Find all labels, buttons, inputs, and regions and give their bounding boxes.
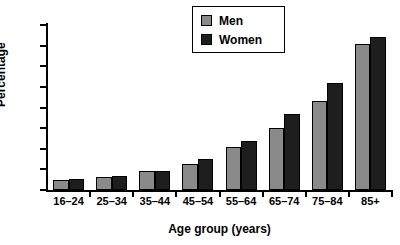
bar-women-4 [241, 141, 257, 191]
y-tick-label-wrap: 60 [0, 65, 47, 67]
bar-women-2 [155, 171, 171, 190]
x-category-label: 75–84 [306, 196, 349, 207]
bar-men-2 [139, 171, 155, 190]
x-axis-title: Age group (years) [47, 222, 392, 236]
legend-label-women: Women [219, 34, 262, 46]
x-category-label: 25–34 [90, 196, 133, 207]
x-category-label: 35–44 [133, 196, 176, 207]
y-tick-label-wrap: 80 [0, 24, 47, 26]
y-axis-title: Percentage [0, 42, 8, 107]
x-category-label: 55–64 [220, 196, 263, 207]
x-category-label: 85+ [349, 196, 392, 207]
bar-men-5 [269, 128, 285, 190]
bar-women-1 [112, 176, 128, 190]
bar-men-1 [96, 177, 112, 190]
bar-men-4 [226, 147, 242, 190]
y-tick-label-wrap: 10 [0, 168, 47, 170]
bar-men-3 [182, 164, 198, 190]
legend-label-men: Men [219, 15, 243, 27]
bar-women-6 [327, 83, 343, 190]
bar-men-6 [312, 101, 328, 190]
bar-group [349, 25, 392, 190]
x-category-label: 65–74 [263, 196, 306, 207]
bar-group [47, 25, 90, 190]
y-tick-label-wrap: 40 [0, 107, 47, 109]
x-category-label: 16–24 [47, 196, 90, 207]
men-swatch-icon [201, 15, 212, 26]
legend: Men Women [192, 6, 285, 53]
legend-item-men: Men [201, 11, 284, 30]
bar-women-3 [198, 159, 214, 190]
bar-men-7 [355, 44, 371, 190]
legend-item-women: Women [201, 30, 284, 49]
y-tick-label-wrap: 50 [0, 86, 47, 88]
bar-women-7 [370, 37, 386, 190]
y-tick-label-wrap: 20 [0, 148, 47, 150]
bar-women-5 [284, 114, 300, 190]
bar-group [90, 25, 133, 190]
x-category-label: 45–54 [176, 196, 219, 207]
bar-women-0 [69, 179, 85, 190]
y-tick-label-wrap: 70 [0, 45, 47, 47]
bar-chart: Percentage 01020304050607080 16–2425–343… [0, 0, 400, 245]
women-swatch-icon [201, 34, 212, 45]
bar-group [133, 25, 176, 190]
y-tick-label-wrap: 0 [0, 189, 47, 191]
y-tick-label-wrap: 30 [0, 127, 47, 129]
bar-group [306, 25, 349, 190]
bar-men-0 [53, 180, 69, 190]
